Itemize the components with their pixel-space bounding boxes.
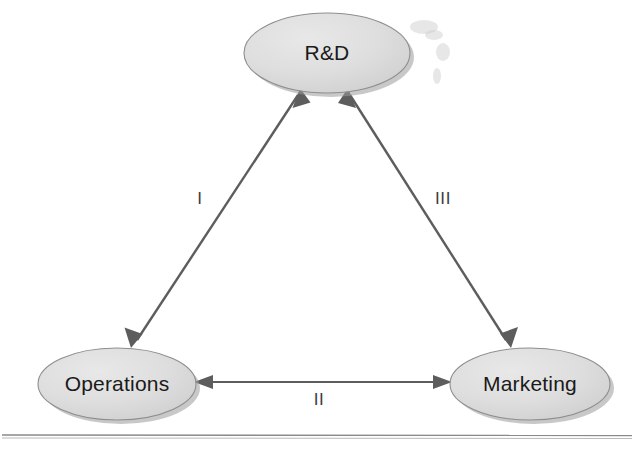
scan-artifact-group (410, 20, 450, 84)
edge-label-iii: III (435, 189, 451, 208)
node-operations-label: Operations (65, 372, 170, 395)
node-operations[interactable]: Operations (38, 348, 200, 424)
node-rd-label: R&D (305, 41, 350, 64)
edge-ii-arrowhead-marketing (433, 375, 452, 389)
edge-iii-group[interactable] (338, 88, 518, 348)
triangle-diagram: R&D Operations Marketing I II III (0, 0, 634, 449)
diagram-canvas: R&D Operations Marketing I II III (0, 0, 634, 449)
node-marketing[interactable]: Marketing (450, 348, 614, 424)
node-rd[interactable]: R&D (244, 13, 414, 97)
edge-i-group[interactable] (125, 88, 311, 348)
edge-i-line (137, 95, 298, 340)
edge-label-i: I (197, 189, 202, 208)
edge-label-ii: II (314, 390, 325, 409)
node-marketing-label: Marketing (483, 372, 577, 395)
edge-iii-arrowhead-marketing (500, 327, 518, 348)
edge-ii-group[interactable] (194, 375, 452, 389)
footer-rule (2, 435, 632, 439)
edge-iii-line (350, 95, 506, 340)
